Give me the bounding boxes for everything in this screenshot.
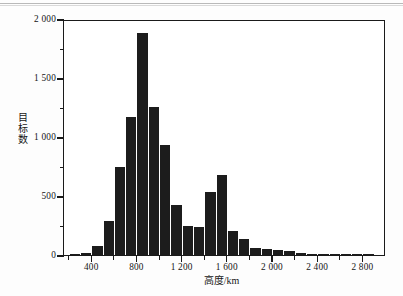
- histogram-bar: [115, 167, 126, 255]
- histogram-bar: [171, 205, 182, 255]
- x-axis-minor-tick: [249, 256, 250, 260]
- scan-artifact-line-secondary: [0, 5, 403, 6]
- x-axis-minor-tick: [159, 256, 160, 260]
- histogram-bar: [81, 253, 92, 255]
- histogram-bar: [239, 239, 250, 255]
- plot-area: [63, 20, 385, 256]
- histogram-bar: [149, 107, 160, 255]
- y-axis-tick-labels: 05001 0001 5002 000: [0, 0, 56, 296]
- histogram-bar: [262, 249, 273, 255]
- histogram-bar: [352, 254, 363, 255]
- x-axis-minor-tick: [204, 256, 205, 260]
- x-axis-minor-tick: [113, 256, 114, 260]
- y-axis-tick-label: 1 000: [4, 133, 56, 142]
- histogram-bar: [70, 254, 81, 255]
- x-axis-minor-tick: [68, 256, 69, 260]
- x-axis-minor-tick: [339, 256, 340, 260]
- histogram-bar: [363, 254, 374, 255]
- histogram-bar: [284, 251, 295, 255]
- scan-artifact-line: [0, 3, 403, 4]
- histogram-bar: [126, 117, 137, 255]
- x-axis-tick-label: 400: [84, 263, 99, 272]
- histogram-bar: [341, 254, 352, 255]
- histogram-bar: [183, 226, 194, 256]
- histogram-bar: [160, 145, 171, 255]
- histogram-bar: [318, 254, 329, 255]
- x-axis-tick-label: 2 400: [306, 263, 328, 272]
- histogram-bar: [228, 231, 239, 255]
- x-axis-tick-label: 2 800: [351, 263, 373, 272]
- histogram-bar: [296, 253, 307, 255]
- y-axis-tick-label: 0: [4, 251, 56, 260]
- histogram-bar: [92, 246, 103, 255]
- figure-canvas: 目标数 05001 0001 5002 000 4008001 2001 600…: [0, 0, 403, 296]
- x-axis-tick-label: 1 200: [171, 263, 193, 272]
- x-axis-tick-label: 800: [129, 263, 144, 272]
- histogram-bar: [194, 227, 205, 255]
- y-axis-tick-label: 2 000: [4, 15, 56, 24]
- x-axis-title: 高度/km: [0, 275, 403, 286]
- y-axis-tick-label: 1 500: [4, 74, 56, 83]
- histogram-bar: [137, 33, 148, 255]
- histogram-bar: [205, 192, 216, 255]
- histogram-bar: [273, 250, 284, 255]
- histogram-bar: [330, 254, 341, 255]
- histogram-bars: [64, 21, 384, 255]
- histogram-bar: [307, 254, 318, 255]
- histogram-bar: [217, 175, 228, 255]
- x-axis-tick-label: 1 600: [216, 263, 238, 272]
- histogram-bar: [104, 221, 115, 255]
- x-axis-minor-tick: [294, 256, 295, 260]
- histogram-bar: [250, 248, 261, 255]
- x-axis-tick-label: 2 000: [261, 263, 283, 272]
- y-axis-tick-label: 500: [4, 192, 56, 201]
